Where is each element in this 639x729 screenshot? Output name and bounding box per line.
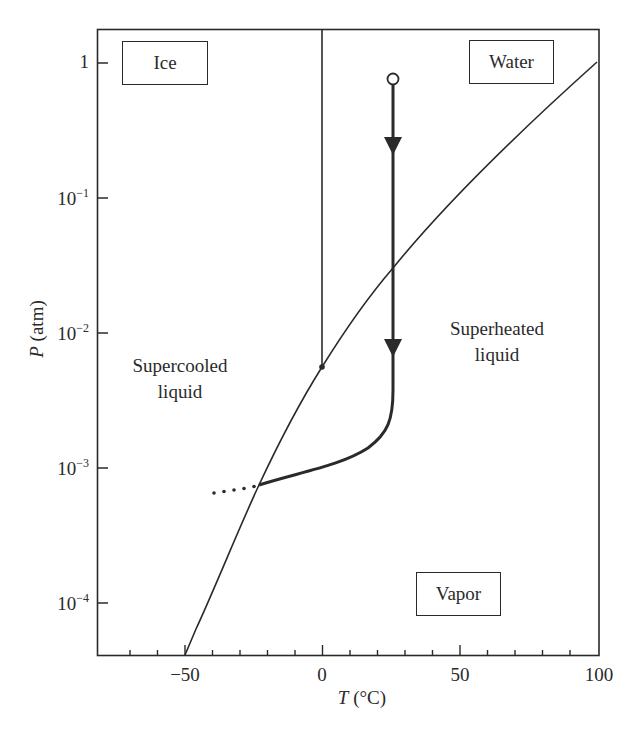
start-point-marker bbox=[388, 74, 399, 85]
vapor-label: Vapor bbox=[436, 583, 481, 605]
superheated-line1: Superheated bbox=[433, 316, 561, 342]
process-path bbox=[259, 85, 393, 485]
y-axis-ticks bbox=[98, 63, 109, 603]
arrow-down-icon bbox=[384, 339, 402, 357]
ice-label: Ice bbox=[153, 52, 176, 74]
superheated-liquid-label: Superheated liquid bbox=[433, 316, 561, 368]
supercooled-line2: liquid bbox=[118, 379, 242, 405]
x-tick-label-100: 100 bbox=[569, 664, 629, 686]
y-axis-title: P (atm) bbox=[26, 284, 48, 374]
y-tick-label-1e-4: 10−4 bbox=[29, 591, 89, 615]
triple-point-dot bbox=[319, 364, 325, 370]
water-label: Water bbox=[489, 51, 534, 73]
x-axis-title: T (°C) bbox=[322, 687, 402, 709]
x-tick-label-neg50: −50 bbox=[155, 664, 215, 686]
ice-label-box: Ice bbox=[122, 41, 208, 85]
y-tick-label-1e-1: 10−1 bbox=[29, 186, 89, 210]
supercooled-line1: Supercooled bbox=[118, 353, 242, 379]
supercooled-liquid-label: Supercooled liquid bbox=[118, 353, 242, 405]
superheated-line2: liquid bbox=[433, 342, 561, 368]
x-axis-ticks bbox=[130, 645, 570, 656]
vapor-label-box: Vapor bbox=[416, 572, 501, 616]
dotted-extrapolation bbox=[212, 485, 256, 495]
x-tick-label-50: 50 bbox=[430, 664, 490, 686]
water-label-box: Water bbox=[469, 40, 554, 84]
arrow-down-icon bbox=[384, 137, 402, 155]
x-tick-label-0: 0 bbox=[292, 664, 352, 686]
y-tick-label-1: 1 bbox=[29, 51, 89, 73]
y-tick-label-1e-3: 10−3 bbox=[29, 456, 89, 480]
